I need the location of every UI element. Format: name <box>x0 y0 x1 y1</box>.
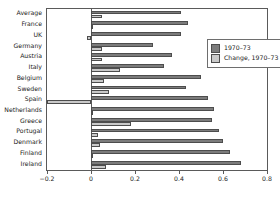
category-label: Italy <box>29 64 42 70</box>
bar-series-1970-73 <box>91 107 214 111</box>
bar-series-change <box>91 165 106 169</box>
bar-series-change <box>91 122 131 126</box>
category-axis-labels: AverageFranceUKGermanyAustriaItalyBelgiu… <box>0 8 44 171</box>
legend-label-change: Change, 1970–73 to 1994–97 <box>224 55 280 61</box>
category-label: Austria <box>20 53 42 59</box>
category-label: France <box>21 21 42 27</box>
legend-item-1970-73: 1970–73 <box>211 44 280 53</box>
legend-swatch-icon-1970-73 <box>211 44 220 53</box>
category-label: Denmark <box>14 139 42 145</box>
x-axis-tick-label: −0.2 <box>39 175 54 182</box>
bar-series-change <box>91 90 109 94</box>
bar-series-change <box>91 68 120 72</box>
plot-area: 1970–73 Change, 1970–73 to 1994–97 <box>46 8 268 171</box>
x-axis-tick <box>179 171 180 174</box>
x-axis-tick-label: 0 <box>89 175 93 182</box>
bar-series-1970-73 <box>91 129 219 133</box>
category-label: Belgium <box>17 75 42 81</box>
x-axis-tick-label: 0.8 <box>262 175 272 182</box>
legend-label-1970-73: 1970–73 <box>224 45 251 51</box>
x-axis-tick <box>223 171 224 174</box>
bar-series-change <box>91 25 93 29</box>
x-axis-tick-label: 0.4 <box>174 175 184 182</box>
category-label: Ireland <box>21 161 42 167</box>
bar-series-1970-73 <box>91 53 172 57</box>
bar-series-change <box>91 58 102 62</box>
bar-series-change <box>47 100 91 104</box>
bar-series-1970-73 <box>91 139 223 143</box>
bar-series-change <box>91 133 98 137</box>
x-axis-tick <box>91 171 92 174</box>
bar-series-change <box>91 154 93 158</box>
bar-series-change <box>91 15 102 19</box>
bar-series-1970-73 <box>91 21 188 25</box>
legend-swatch-icon-change <box>211 54 220 63</box>
bar-series-change <box>91 79 104 83</box>
value-axis: −0.200.20.40.60.8 <box>46 171 268 191</box>
bar-series-1970-73 <box>91 11 181 15</box>
x-axis-tick-label: 0.2 <box>130 175 140 182</box>
horizontal-bar-chart: AverageFranceUKGermanyAustriaItalyBelgiu… <box>0 0 280 199</box>
category-label: UK <box>33 32 42 38</box>
bar-series-1970-73 <box>91 75 201 79</box>
bar-series-change <box>91 143 100 147</box>
category-label: Netherlands <box>4 107 42 113</box>
category-label: Average <box>17 10 42 16</box>
category-label: Germany <box>14 42 42 48</box>
bar-series-1970-73 <box>91 96 208 100</box>
category-label: Sweden <box>18 85 42 91</box>
category-label: Finland <box>20 150 42 156</box>
x-axis-tick <box>267 171 268 174</box>
x-axis-tick-label: 0.6 <box>218 175 228 182</box>
bar-series-change <box>91 111 93 115</box>
chart-legend: 1970–73 Change, 1970–73 to 1994–97 <box>207 39 280 68</box>
legend-item-change: Change, 1970–73 to 1994–97 <box>211 54 280 63</box>
bar-series-1970-73 <box>91 32 181 36</box>
bar-series-change <box>87 36 91 40</box>
bar-series-change <box>91 47 102 51</box>
bar-series-1970-73 <box>91 150 230 154</box>
category-label: Spain <box>25 96 42 102</box>
category-label: Portugal <box>16 128 42 134</box>
x-axis-tick <box>47 171 48 174</box>
category-label: Greece <box>20 118 42 124</box>
x-axis-tick <box>135 171 136 174</box>
bar-series-1970-73 <box>91 161 241 165</box>
